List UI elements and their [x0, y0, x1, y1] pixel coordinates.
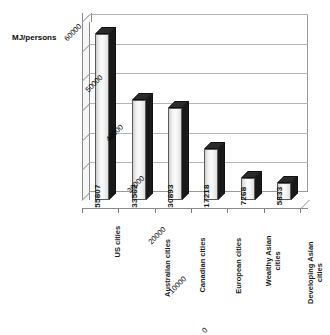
x-axis-category-label: European cities	[235, 238, 244, 294]
bar: 7268	[241, 178, 255, 200]
bar-value-label: 7268	[239, 187, 248, 206]
x-axis-category-label: US cities	[114, 226, 123, 258]
bar-side-face	[146, 93, 153, 200]
x-axis-tick	[82, 209, 83, 213]
gridline	[90, 14, 308, 15]
x-axis-category-label: Wealthy Asiancities	[264, 235, 282, 286]
x-axis-tick	[264, 209, 265, 213]
bar-value-label: 30893	[166, 184, 175, 207]
y-axis-tick-label: 60000	[62, 22, 83, 43]
x-axis-tick	[118, 209, 119, 213]
plot-area: 0100002000030000400005000060000 55807335…	[82, 22, 300, 200]
bar-front-face	[95, 34, 109, 200]
y-axis-title: MJ/persons	[12, 33, 56, 42]
x-axis-category-label: Canadian cities	[198, 238, 207, 293]
bar-value-label: 5833	[275, 187, 284, 206]
x-axis-tick	[155, 209, 156, 213]
bar-side-face	[109, 27, 116, 200]
x-axis-category-label: Developing Asiancities	[306, 241, 324, 304]
x-axis-tick	[227, 209, 228, 213]
bar-value-label: 55807	[93, 184, 102, 207]
bar: 17218	[204, 149, 218, 200]
x-axis-tick	[191, 209, 192, 213]
x-axis-tick	[300, 209, 301, 213]
bar-side-face	[218, 142, 225, 200]
bar-value-label: 17218	[202, 184, 211, 207]
bar: 30893	[168, 108, 182, 200]
y-axis-tick-label: 0	[200, 326, 209, 335]
bars-group: 5580733562308931721872685833	[82, 22, 300, 200]
x-axis-labels: US citiesAustralian citiesCanadian citie…	[82, 210, 308, 284]
bar: 55807	[95, 34, 109, 200]
bar: 5833	[277, 183, 291, 200]
bar-side-face	[182, 101, 189, 200]
